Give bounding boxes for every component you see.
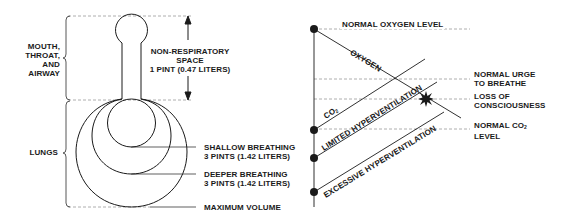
normal-urge-label: NORMAL URGE TO BREATHE: [474, 70, 535, 88]
non-respiratory-line2: SPACE: [146, 56, 234, 65]
normal-co2-label: NORMAL CO2 LEVEL: [474, 121, 527, 141]
loss-line1: LOSS OF: [474, 92, 546, 101]
normal-urge-line2: TO BREATHE: [474, 79, 535, 88]
lungs-bracket: [63, 101, 70, 207]
lungs-label: LUNGS: [6, 148, 58, 157]
normal-urge-line1: NORMAL URGE: [474, 70, 535, 79]
non-respiratory-label: NON-RESPIRATORY SPACE 1 PINT (0.47 LITER…: [146, 47, 234, 74]
limited-start-dot: [310, 126, 318, 134]
loss-star-icon: [418, 91, 434, 107]
airway-label: MOUTH, THROAT, AND AIRWAY: [6, 42, 60, 78]
limited-lower-dot: [310, 154, 318, 162]
non-respiratory-line1: NON-RESPIRATORY: [146, 47, 234, 56]
start-dot: [310, 25, 318, 33]
loss-consciousness-label: LOSS OF CONSCIOUSNESS: [474, 92, 546, 110]
airway-bracket: [63, 16, 70, 100]
excessive-line: [314, 112, 444, 192]
deeper-lung-circle: [92, 99, 171, 174]
airway-shape: [76, 14, 187, 207]
deeper-volume: 3 PINTS (1.42 LITERS): [204, 179, 290, 188]
normal-oxygen-label: NORMAL OXYGEN LEVEL: [340, 20, 445, 29]
shallow-volume: 3 PINTS (1.42 LITERS): [204, 152, 295, 161]
normal-co2-text: NORMAL CO: [474, 121, 524, 130]
shallow-title: SHALLOW BREATHING: [204, 143, 295, 152]
deeper-breathing-label: DEEPER BREATHING 3 PINTS (1.42 LITERS): [204, 170, 290, 188]
max-lung-circle: [76, 99, 187, 207]
shallow-breathing-label: SHALLOW BREATHING 3 PINTS (1.42 LITERS): [204, 143, 295, 161]
airway-label-line: THROAT,: [6, 51, 60, 60]
loss-line2: CONSCIOUSNESS: [474, 101, 546, 110]
shallow-lung-circle: [108, 99, 156, 147]
normal-co2-sub: 2: [524, 124, 527, 130]
airway-label-line: AND: [6, 60, 60, 69]
airway-label-line: AIRWAY: [6, 69, 60, 78]
excessive-start-dot: [310, 188, 318, 196]
maximum-volume-label: MAXIMUM VOLUME: [204, 203, 281, 212]
non-respiratory-line3: 1 PINT (0.47 LITERS): [146, 65, 234, 74]
deeper-title: DEEPER BREATHING: [204, 170, 290, 179]
normal-co2-line2: LEVEL: [474, 132, 527, 141]
airway-label-line: MOUTH,: [6, 42, 60, 51]
